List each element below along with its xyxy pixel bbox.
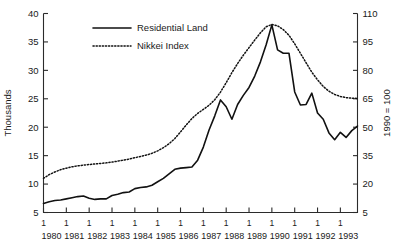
y-axis-tick-label: 15 <box>28 150 39 161</box>
x-axis-quarter-label: 1 <box>110 218 115 228</box>
legend-label-1: Residential Land <box>137 22 208 33</box>
y2-axis-tick-label: 65 <box>363 93 374 104</box>
x-axis-year-label: 1983 <box>110 231 130 241</box>
x-axis-year-label: 1980 <box>41 231 61 241</box>
chart-container: 5101520253035405203550658095110Thousands… <box>0 0 397 252</box>
x-axis-year-label: 1987 <box>201 231 221 241</box>
line-chart-figure: 5101520253035405203550658095110Thousands… <box>0 0 397 252</box>
y2-axis-tick-label: 80 <box>363 65 374 76</box>
y-axis-tick-label: 10 <box>28 178 39 189</box>
x-axis-year-label: 1990 <box>270 231 290 241</box>
x-axis-year-label: 1991 <box>293 231 313 241</box>
y2-axis-tick-label: 35 <box>363 150 374 161</box>
y2-axis-title: 1990 = 100 <box>381 89 392 137</box>
x-axis-year-label: 1982 <box>87 231 107 241</box>
x-axis-quarter-label: 1 <box>178 218 183 228</box>
x-axis-quarter-label: 1 <box>201 218 206 228</box>
x-axis-quarter-label: 1 <box>292 218 297 228</box>
y-axis-tick-label: 25 <box>28 93 39 104</box>
y2-axis-tick-label: 20 <box>363 178 374 189</box>
y2-axis-tick-label: 5 <box>363 207 368 218</box>
y2-axis-tick-label: 110 <box>363 8 378 19</box>
x-axis-quarter-label: 1 <box>315 218 320 228</box>
y2-axis-tick-label: 95 <box>363 36 374 47</box>
series-line-1 <box>44 25 358 204</box>
y2-axis-tick-label: 50 <box>363 122 374 133</box>
legend-label-2: Nikkei Index <box>137 40 189 51</box>
x-axis-quarter-label: 1 <box>247 218 252 228</box>
x-axis-year-label: 1988 <box>224 231 244 241</box>
x-axis-quarter-label: 1 <box>132 218 137 228</box>
x-axis-quarter-label: 1 <box>269 218 274 228</box>
x-axis-year-label: 1984 <box>133 231 153 241</box>
x-axis-quarter-label: 1 <box>338 218 343 228</box>
y-axis-tick-label: 20 <box>28 122 39 133</box>
x-axis-year-label: 1985 <box>156 231 176 241</box>
x-axis-quarter-label: 1 <box>87 218 92 228</box>
x-axis-year-label: 1981 <box>64 231 84 241</box>
x-axis-quarter-label: 1 <box>155 218 160 228</box>
y-axis-tick-label: 5 <box>33 207 38 218</box>
x-axis-year-label: 1993 <box>338 231 358 241</box>
x-axis-year-label: 1986 <box>179 231 199 241</box>
x-axis-year-label: 1989 <box>247 231 267 241</box>
x-axis-quarter-label: 1 <box>41 218 46 228</box>
x-axis-year-label: 1992 <box>316 231 336 241</box>
x-axis-quarter-label: 1 <box>224 218 229 228</box>
x-axis-quarter-label: 1 <box>64 218 69 228</box>
y-axis-tick-label: 30 <box>28 65 39 76</box>
chart-axes <box>44 14 358 213</box>
y-axis-tick-label: 35 <box>28 36 39 47</box>
y-axis-tick-label: 40 <box>28 8 39 19</box>
y-axis-title: Thousands <box>2 89 13 136</box>
